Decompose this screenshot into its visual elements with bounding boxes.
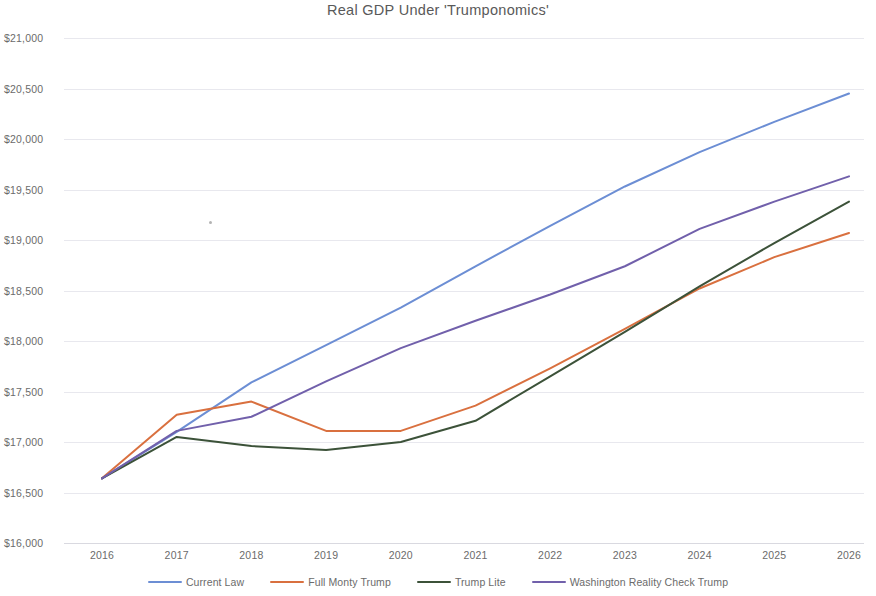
y-axis-label: $17,500 (4, 386, 62, 398)
legend-color-swatch (148, 581, 182, 584)
y-axis-label: $20,500 (4, 83, 62, 95)
y-axis-label: $16,000 (4, 537, 62, 549)
gridline (64, 543, 864, 544)
x-axis-label: 2020 (389, 549, 413, 561)
legend-color-swatch (532, 581, 566, 584)
legend-label: Current Law (186, 576, 244, 588)
plot-area (64, 38, 864, 543)
y-axis-label: $18,000 (4, 335, 62, 347)
legend-item[interactable]: Trump Lite (417, 576, 506, 588)
x-axis-label: 2018 (239, 549, 263, 561)
y-axis-label: $20,000 (4, 133, 62, 145)
x-axis-label: 2021 (463, 549, 487, 561)
legend-item[interactable]: Full Monty Trump (270, 576, 391, 588)
x-axis-label: 2023 (613, 549, 637, 561)
legend-label: Full Monty Trump (308, 576, 391, 588)
legend-item[interactable]: Washington Reality Check Trump (532, 576, 728, 588)
y-axis-label: $21,000 (4, 32, 62, 44)
legend-item[interactable]: Current Law (148, 576, 244, 588)
x-axis-label: 2026 (837, 549, 861, 561)
x-axis-label: 2024 (688, 549, 712, 561)
chart-title: Real GDP Under 'Trumponomics' (0, 2, 876, 18)
series-line (102, 202, 849, 479)
x-axis-label: 2016 (90, 549, 114, 561)
legend-color-swatch (270, 581, 304, 584)
x-axis-tick-labels: 2016201720182019202020212022202320242025… (64, 549, 864, 569)
legend-color-swatch (417, 581, 451, 584)
y-axis-label: $19,000 (4, 234, 62, 246)
y-axis-label: $18,500 (4, 285, 62, 297)
chart-container: Real GDP Under 'Trumponomics' $16,000$16… (0, 0, 876, 596)
y-axis-label: $19,500 (4, 184, 62, 196)
y-axis-tick-labels: $16,000$16,500$17,000$17,500$18,000$18,5… (0, 38, 62, 543)
chart-legend: Current LawFull Monty TrumpTrump LiteWas… (0, 576, 876, 588)
x-axis-label: 2025 (762, 549, 786, 561)
y-axis-label: $17,000 (4, 436, 62, 448)
x-axis-label: 2019 (314, 549, 338, 561)
x-axis-label: 2022 (538, 549, 562, 561)
scan-artifact-speck (209, 221, 212, 224)
y-axis-label: $16,500 (4, 487, 62, 499)
x-axis-label: 2017 (165, 549, 189, 561)
series-lines (64, 38, 864, 543)
series-line (102, 176, 849, 478)
legend-label: Washington Reality Check Trump (570, 576, 728, 588)
legend-label: Trump Lite (455, 576, 506, 588)
